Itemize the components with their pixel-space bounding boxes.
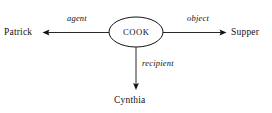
edge-label-object: object — [187, 13, 209, 23]
edge-agent-line — [43, 30, 110, 36]
edge-label-recipient: recipient — [142, 58, 174, 68]
node-label-patrick: Patrick — [4, 27, 32, 38]
edge-recipient-line — [133, 47, 139, 90]
semantic-network-diagram: COOK Patrick Supper Cynthia agent object… — [0, 0, 272, 113]
predicate-label-cook: COOK — [123, 27, 150, 37]
edge-object-line — [163, 30, 227, 36]
node-label-supper: Supper — [231, 27, 259, 38]
edge-label-agent: agent — [67, 13, 87, 23]
node-label-cynthia: Cynthia — [114, 95, 145, 106]
